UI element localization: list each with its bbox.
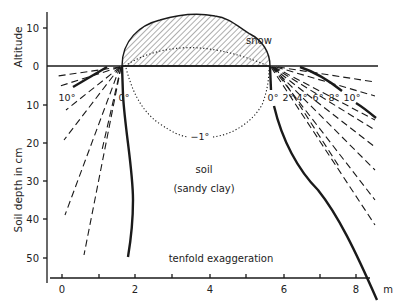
y-tick-50: 50	[26, 253, 39, 264]
right-label-10deg: 10°	[344, 92, 361, 103]
right-label-4deg: 4°	[297, 92, 308, 103]
y-axis-title-soil-depth: Soil depth in cm	[12, 147, 24, 232]
y-axis	[43, 12, 47, 283]
x-axis	[50, 274, 370, 278]
x-tick-8: 8	[353, 284, 359, 295]
left-isotherm-10-heavy	[73, 67, 107, 87]
snow-label: snow	[246, 35, 272, 46]
right-isotherm-0-heavy-lower	[274, 106, 377, 300]
exaggeration-note: tenfold exaggeration	[169, 253, 274, 264]
x-tick-2: 2	[132, 284, 138, 295]
x-axis-unit: m	[383, 284, 393, 295]
y-tick-30: 30	[26, 176, 39, 187]
y-tick-upper-10: 10	[26, 23, 39, 34]
right-label-8deg: 8°	[329, 92, 340, 103]
x-tick-6: 6	[281, 284, 287, 295]
right-label-0deg: 0°	[268, 92, 279, 103]
right-label-2deg: 2°	[283, 92, 294, 103]
x-tick-0: 0	[59, 284, 65, 295]
y-tick-40: 40	[26, 214, 39, 225]
soil-type-label: (sandy clay)	[173, 183, 234, 194]
inner-label-minus1deg: −1°	[191, 131, 210, 142]
left-label-10deg: 10°	[59, 92, 76, 103]
x-tick-4: 4	[207, 284, 213, 295]
snow-soil-temperature-diagram: 10 0 10 20 30 40 50 Altitude Soil depth …	[0, 0, 397, 303]
y-tick-20: 20	[26, 138, 39, 149]
y-axis-title-altitude: Altitude	[12, 26, 24, 67]
left-label-0deg: 0°	[119, 92, 130, 103]
y-tick-0: 0	[33, 61, 39, 72]
y-tick-10: 10	[26, 100, 39, 111]
right-isotherm-0-heavy	[270, 66, 271, 90]
soil-label: soil	[196, 164, 213, 175]
right-label-6deg: 6°	[313, 92, 324, 103]
